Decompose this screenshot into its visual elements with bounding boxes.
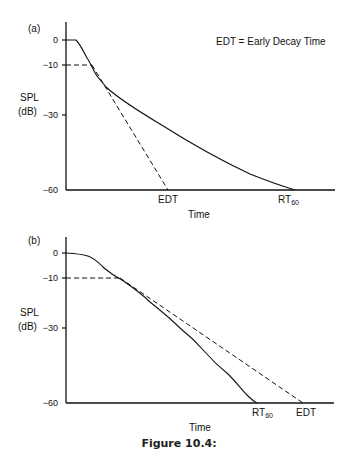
decay-curve: [66, 40, 295, 190]
panel-b: (b) 0 −10 −30 −60 SPL (dB) RT60 EDT Time: [18, 235, 334, 433]
tick-minus30: −30: [43, 323, 58, 333]
edt-marker: EDT: [296, 407, 316, 418]
tick-minus30: −30: [43, 110, 58, 120]
rt60-marker: RT60: [278, 194, 299, 206]
tick-minus60: −60: [43, 398, 58, 408]
y-axis-title: SPL: [20, 307, 39, 318]
tick-0: 0: [53, 248, 58, 258]
tick-0: 0: [53, 35, 58, 45]
panel-b-label: (b): [28, 235, 40, 246]
y-axis-unit: (dB): [18, 106, 37, 117]
panel-a: (a) EDT = Early Decay Time 0 −10 −30 −60…: [18, 22, 335, 220]
x-axis-title: Time: [189, 422, 211, 433]
y-axis-unit: (dB): [18, 321, 37, 332]
panel-a-label: (a): [28, 23, 40, 34]
decay-curve: [66, 253, 257, 403]
edt-marker: EDT: [158, 194, 178, 205]
tick-minus10: −10: [43, 60, 58, 70]
tick-minus60: −60: [43, 185, 58, 195]
tick-minus10: −10: [43, 273, 58, 283]
edt-extrapolation-line: [120, 278, 303, 403]
rt60-marker: RT60: [252, 407, 273, 419]
figure-caption: Figure 10.4:: [0, 437, 358, 450]
y-axis-title: SPL: [20, 92, 39, 103]
legend-note: EDT = Early Decay Time: [216, 36, 326, 47]
figure-canvas: (a) EDT = Early Decay Time 0 −10 −30 −60…: [0, 0, 358, 460]
x-axis-title: Time: [188, 209, 210, 220]
